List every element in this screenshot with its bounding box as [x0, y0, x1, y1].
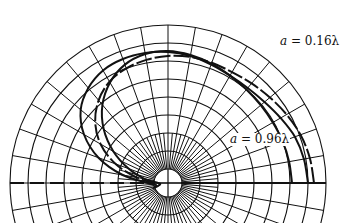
- label-a-016: a = 0.16λ: [279, 35, 340, 48]
- grid-spoke: [182, 185, 324, 210]
- grid-spoke: [170, 27, 195, 169]
- label-a-016-value: = 0.16λ: [287, 34, 339, 48]
- grid-spoke: [141, 27, 166, 169]
- grid-spoke: [12, 185, 154, 210]
- label-a-096-value: = 0.96λ: [237, 132, 289, 146]
- grid-spoke: [180, 190, 305, 223]
- grid-spoke: [12, 156, 154, 181]
- grid-spoke: [31, 190, 156, 223]
- grid-spoke: [177, 62, 270, 172]
- grid-spoke: [179, 81, 289, 174]
- grid-spoke: [182, 156, 324, 181]
- label-a-096: a = 0.96λ: [229, 133, 290, 146]
- pattern-curve-2: [102, 51, 292, 188]
